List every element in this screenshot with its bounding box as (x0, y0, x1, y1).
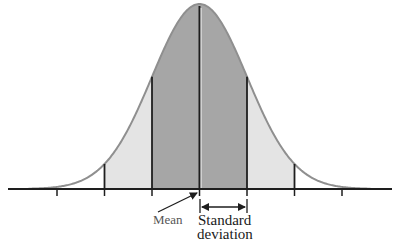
mean-arrow (158, 193, 197, 212)
standard-deviation-label-line2: deviation (197, 226, 253, 242)
axis-ticks (57, 189, 342, 196)
normal-distribution-diagram: Mean Standard deviation (0, 0, 399, 242)
mean-label: Mean (153, 212, 183, 227)
